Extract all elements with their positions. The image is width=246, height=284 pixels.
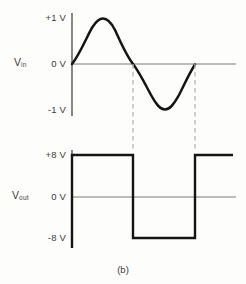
- output-tick-label-plus8: +8 V: [22, 150, 66, 160]
- output-signal-label-subscript: out: [19, 194, 29, 201]
- figure-caption: (b): [0, 265, 246, 275]
- output-tick-label-minus8: -8 V: [22, 233, 66, 243]
- input-tick-label-zero: 0 V: [22, 59, 66, 69]
- output-plot-group: [72, 150, 236, 248]
- input-signal-label-subscript: in: [21, 61, 27, 68]
- waveform-figure: +1 V 0 V -1 V Vin +8 V 0 V -8 V Vout (b): [0, 0, 246, 284]
- input-signal-label-main: V: [14, 56, 21, 68]
- input-signal-label: Vin: [14, 57, 27, 69]
- output-square-trace: [72, 155, 233, 248]
- input-tick-label-minus1: -1 V: [22, 105, 66, 115]
- input-tick-label-plus1: +1 V: [22, 13, 66, 23]
- input-plot-group: [72, 13, 236, 116]
- output-signal-label: Vout: [12, 190, 29, 202]
- output-signal-label-main: V: [12, 189, 19, 201]
